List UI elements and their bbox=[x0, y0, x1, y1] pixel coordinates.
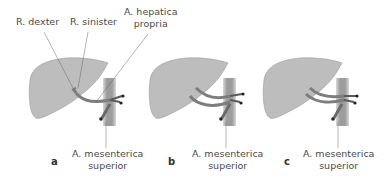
panel-letter-a: a bbox=[51, 156, 58, 167]
panel-a bbox=[29, 32, 148, 148]
label-sma-c: A. mesenterica superior bbox=[303, 148, 374, 172]
panel-letter-c: c bbox=[284, 156, 290, 167]
label-sma-a: A. mesenterica superior bbox=[72, 148, 143, 172]
label-r-dexter: R. dexter bbox=[16, 16, 59, 28]
label-sma-a-line2: superior bbox=[72, 160, 143, 172]
liver-a bbox=[29, 58, 108, 119]
label-sma-b-line2: superior bbox=[192, 160, 263, 172]
label-sma-b: A. mesenterica superior bbox=[192, 148, 263, 172]
label-sma-c-line2: superior bbox=[303, 160, 374, 172]
panel-b bbox=[149, 58, 244, 148]
liver-b bbox=[149, 58, 228, 119]
label-hepatica-line1: A. hepatica bbox=[124, 6, 178, 18]
panel-c bbox=[263, 58, 358, 148]
label-sma-b-line1: A. mesenterica bbox=[192, 148, 263, 160]
label-sma-c-line1: A. mesenterica bbox=[303, 148, 374, 160]
panel-letter-b: b bbox=[168, 156, 175, 167]
liver-c bbox=[263, 58, 342, 119]
label-hepatica-line2: propria bbox=[124, 18, 178, 30]
label-hepatica-propria: A. hepatica propria bbox=[124, 6, 178, 30]
label-sma-a-line1: A. mesenterica bbox=[72, 148, 143, 160]
label-r-sinister: R. sinister bbox=[70, 16, 117, 28]
